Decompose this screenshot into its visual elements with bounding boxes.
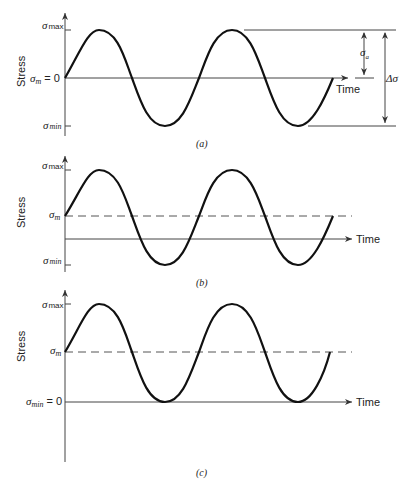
sigma-max-label: σmax	[42, 159, 64, 171]
panel-caption: (c)	[196, 467, 208, 479]
sigma-min-label: σmin = 0	[26, 395, 62, 409]
stress-cycles-diagram: Stress Time σmax σm = 0 σmin σa Δσ (a) S…	[0, 0, 409, 483]
panel-caption: (a)	[196, 138, 208, 150]
sigma-mean-label: σm	[50, 344, 61, 358]
panel-a: Stress Time σmax σm = 0 σmin σa Δσ (a)	[15, 13, 398, 150]
y-axis-label: Stress	[15, 196, 27, 228]
amplitude-label: σa	[360, 46, 369, 61]
panel-c: Stress Time σmax σm σmin = 0 (c)	[15, 290, 380, 479]
y-axis-label: Stress	[15, 55, 27, 87]
panel-b: Stress Time σmax σm σmin (b)	[15, 156, 380, 289]
sigma-min-label: σmin	[43, 119, 61, 131]
stress-wave	[65, 170, 333, 265]
x-axis-label: Time	[336, 83, 360, 95]
x-axis-label: Time	[356, 396, 380, 408]
x-axis-label: Time	[356, 233, 380, 245]
y-axis-label: Stress	[15, 330, 27, 362]
sigma-mean-label: σm	[49, 208, 60, 222]
sigma-max-label: σmax	[42, 298, 64, 310]
sigma-mean-label: σm = 0	[30, 72, 60, 86]
range-label: Δσ	[385, 72, 398, 84]
sigma-max-label: σmax	[42, 19, 64, 31]
panel-caption: (b)	[196, 277, 208, 289]
sigma-min-label: σmin	[43, 254, 61, 266]
stress-wave	[65, 304, 330, 402]
